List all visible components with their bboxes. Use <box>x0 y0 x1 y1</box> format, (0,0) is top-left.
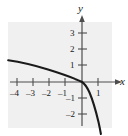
graph-canvas <box>0 0 128 136</box>
x-tick-label: –2 <box>42 89 51 98</box>
x-tick-label: –4 <box>10 89 19 98</box>
y-tick-label: –2 <box>66 110 75 119</box>
x-tick-label: 1 <box>96 89 101 98</box>
y-axis <box>79 15 85 126</box>
y-axis-label: y <box>78 3 83 14</box>
x-tick-label: –3 <box>26 89 35 98</box>
x-axis <box>10 79 122 85</box>
y-tick-label: 3 <box>70 29 75 38</box>
y-tick-label: 1 <box>70 61 75 70</box>
y-tick-label: 2 <box>70 45 75 54</box>
y-tick-label: –1 <box>66 94 75 103</box>
graph-figure: y x –4 –3 –2 –1 1 3 2 1 –1 –2 <box>0 0 128 136</box>
curve-path <box>8 60 101 134</box>
x-axis-label: x <box>120 76 125 87</box>
